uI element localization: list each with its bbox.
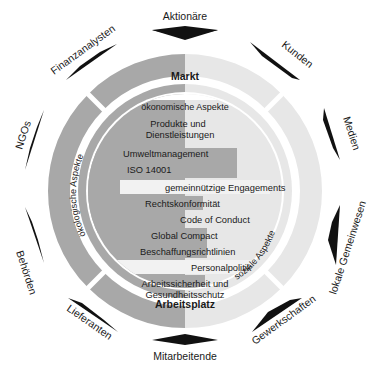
topic-umweltmanagement: Umweltmanagement — [123, 149, 209, 159]
arrow-medien-icon — [323, 108, 340, 160]
arrow-mitarbeitende-icon — [152, 334, 218, 345]
topic-beschaffung: Beschaffungsrichtlinien — [140, 247, 235, 257]
aspect-label-oekonomisch: ökonomische Aspekte — [141, 102, 229, 112]
topic-code-of-conduct: Code of Conduct — [180, 215, 250, 225]
topic-gemeinnuetzig: gemeinnützige Engagements — [165, 183, 286, 193]
stakeholder-kunden: Kunden — [280, 38, 316, 70]
topic-arbeitssicherheit: Arbeitssicherheit und — [142, 279, 229, 289]
stakeholder-lieferanten: Lieferanten — [65, 302, 115, 342]
arrow-ngos-icon — [25, 110, 44, 170]
stakeholder-aktionaere: Aktionäre — [163, 10, 208, 22]
topic-gesundheitsschutz: Gesundheitsschutz — [145, 290, 224, 300]
stakeholder-medien: Medien — [341, 115, 363, 152]
stakeholder-diagram: Markt Arbeitsplatz ökonomische Aspekte ö… — [0, 0, 370, 369]
topic-personalpolitik: Personalpolitik — [191, 263, 252, 273]
stakeholder-mitarbeitende: Mitarbeitende — [153, 350, 217, 362]
stakeholder-behoerden: Behörden — [14, 249, 40, 296]
topic-iso-14001: ISO 14001 — [127, 165, 171, 175]
stakeholder-ngos: NGOs — [12, 119, 32, 150]
sector-label-markt: Markt — [171, 70, 200, 82]
topic-produkte: Produkte und — [150, 119, 205, 129]
topic-rechtskonformitaet: Rechtskonformität — [145, 199, 220, 209]
topic-dienstleistungen: Dienstleistungen — [146, 130, 215, 140]
topic-global-compact: Global Compact — [151, 231, 218, 241]
